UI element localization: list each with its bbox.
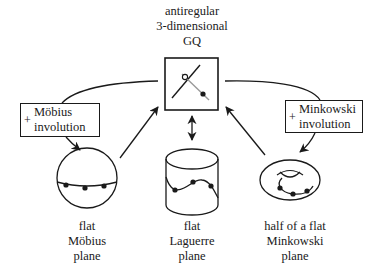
minkowski-involution-line-2: involution <box>299 117 350 132</box>
mobius-plane-line-1: flat <box>57 219 117 234</box>
mobius-involution-box: + Möbius involution <box>20 103 100 137</box>
edge-gq-to-minkowski-involution <box>225 81 320 100</box>
plus-symbol: + <box>24 113 31 128</box>
minkowski-plane-line-3: plane <box>250 249 340 264</box>
mobius-plane-line-3: plane <box>57 249 117 264</box>
edge-torus-to-gq <box>226 107 265 155</box>
torus-icon <box>260 160 320 200</box>
minkowski-involution-box: + Minkowski involution <box>285 100 363 133</box>
mobius-involution-line-1: Möbius <box>34 105 72 120</box>
edge-sphere-to-gq <box>120 107 158 158</box>
cylinder-icon <box>166 149 218 215</box>
laguerre-plane-line-3: plane <box>160 249 224 264</box>
edge-mobius-involution-to-sphere <box>66 137 80 150</box>
gq-node-box <box>165 58 218 110</box>
laguerre-plane-line-2: Laguerre <box>160 234 224 249</box>
minkowski-involution-line-1: Minkowski <box>299 102 356 117</box>
gq-label-line-2: 3-dimensional <box>140 19 244 34</box>
sphere-icon <box>57 148 117 208</box>
laguerre-plane-label: flat Laguerre plane <box>160 219 224 264</box>
gq-label-line-1: antiregular <box>140 4 244 19</box>
gq-open-point-icon <box>182 74 187 79</box>
edge-minkowski-involution-to-torus <box>300 133 315 152</box>
minkowski-plane-line-2: Minkowski <box>250 234 340 249</box>
mobius-involution-line-2: involution <box>34 120 85 135</box>
minkowski-plane-label: half of a flat Minkowski plane <box>250 219 340 264</box>
laguerre-plane-line-1: flat <box>160 219 224 234</box>
plus-symbol: + <box>289 110 296 125</box>
mobius-plane-line-2: Möbius <box>57 234 117 249</box>
gq-solid-point-icon <box>200 91 205 96</box>
mobius-plane-label: flat Möbius plane <box>57 219 117 264</box>
gq-label-line-3: GQ <box>140 34 244 49</box>
edge-gq-to-mobius-involution <box>62 81 158 103</box>
gq-node-label: antiregular 3-dimensional GQ <box>140 4 244 49</box>
minkowski-plane-line-1: half of a flat <box>250 219 340 234</box>
